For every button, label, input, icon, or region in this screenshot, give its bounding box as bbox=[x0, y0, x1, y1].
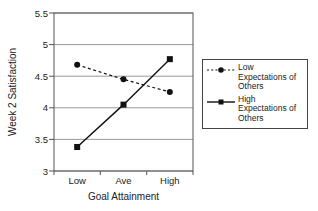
legend-entry-low-expectations: Low Expectations of Others bbox=[206, 63, 305, 92]
data-point-circle bbox=[74, 62, 80, 68]
legend-label: High Expectations of Others bbox=[238, 95, 300, 124]
data-point-square bbox=[121, 102, 127, 108]
y-tick-label: 4.5 bbox=[18, 71, 48, 82]
x-category-label: Ave bbox=[102, 175, 146, 186]
legend-entry-high-expectations: High Expectations of Others bbox=[206, 95, 305, 124]
data-point-circle bbox=[121, 76, 127, 82]
legend-label: Low Expectations of Others bbox=[238, 63, 300, 92]
dashed-line-circle-marker-icon bbox=[206, 65, 238, 75]
data-point-square bbox=[167, 56, 173, 62]
data-point-circle bbox=[167, 89, 173, 95]
legend: Low Expectations of Others High Expectat… bbox=[202, 59, 308, 129]
x-category-label: High bbox=[148, 175, 192, 186]
line-chart: Week 2 Satisfaction Goal Attainment Low … bbox=[0, 0, 318, 211]
y-tick-label: 3.5 bbox=[18, 134, 48, 145]
y-tick-label: 4 bbox=[18, 102, 48, 113]
x-axis-title: Goal Attainment bbox=[63, 191, 184, 202]
solid-line-square-marker-icon bbox=[206, 97, 238, 107]
y-tick-label: 5.5 bbox=[18, 8, 48, 19]
data-point-square bbox=[74, 144, 80, 150]
y-tick-label: 5 bbox=[18, 39, 48, 50]
x-category-label: Low bbox=[55, 175, 99, 186]
y-tick-label: 3 bbox=[18, 166, 48, 177]
